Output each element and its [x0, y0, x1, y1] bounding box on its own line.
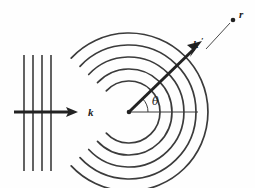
diagram-canvas: k θ k ′ r [0, 0, 255, 188]
observation-point-label: r [239, 8, 244, 20]
scattering-angle-label: θ [152, 95, 159, 108]
scattering-center-point [127, 110, 132, 115]
observation-point-dot [231, 18, 236, 23]
observation-ray-line [206, 23, 230, 49]
scattered-wavevector-prime: ′ [201, 36, 204, 46]
scattered-wavevector-arrow [130, 41, 202, 111]
incident-wavevector-label: k [88, 106, 94, 118]
scattering-diagram-figure: k θ k ′ r [0, 0, 255, 188]
scattering-angle-arc [143, 99, 148, 112]
scattered-wavevector-label: k [193, 38, 199, 50]
